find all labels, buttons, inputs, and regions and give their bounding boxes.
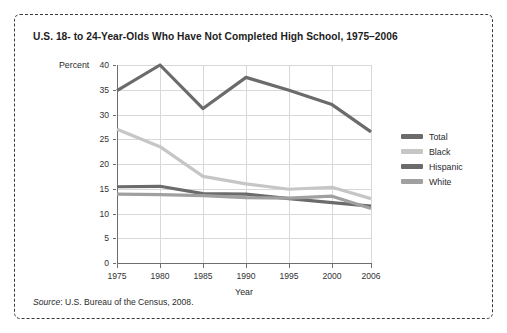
legend-item-hispanic[interactable]: Hispanic <box>401 159 487 174</box>
legend-swatch-white <box>401 179 423 184</box>
series-line-total <box>117 65 371 132</box>
legend-label: Hispanic <box>429 162 463 172</box>
source-note: Source: U.S. Bureau of the Census, 2008. <box>33 297 194 307</box>
legend-label: Total <box>429 132 448 142</box>
series-line-black <box>117 129 371 198</box>
legend-swatch-total <box>401 134 423 139</box>
legend-item-black[interactable]: Black <box>401 144 487 159</box>
legend-swatch-black <box>401 149 423 154</box>
source-separator: : <box>60 297 62 307</box>
figure-panel: U.S. 18- to 24-Year-Olds Who Have Not Co… <box>14 14 493 319</box>
legend-item-white[interactable]: White <box>401 174 487 189</box>
legend-item-total[interactable]: Total <box>401 129 487 144</box>
legend-label: White <box>429 177 452 187</box>
legend-swatch-hispanic <box>401 164 423 169</box>
plot-wrapper: Percent 0510152025303540 197519801985199… <box>15 15 492 318</box>
source-value: U.S. Bureau of the Census, 2008. <box>65 297 194 307</box>
source-label: Source <box>33 297 60 307</box>
chart-legend: TotalBlackHispanicWhite <box>401 129 487 189</box>
legend-label: Black <box>429 147 451 157</box>
